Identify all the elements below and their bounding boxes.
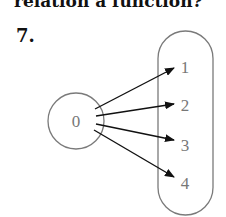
range-value-2: 2 bbox=[181, 96, 190, 115]
domain-set: 0 bbox=[48, 93, 104, 149]
range-value-1: 1 bbox=[181, 58, 190, 77]
range-value-4: 4 bbox=[181, 174, 190, 193]
arrow-0-to-1 bbox=[95, 68, 174, 109]
mapping-arrows bbox=[94, 68, 174, 177]
range-value-3: 3 bbox=[181, 136, 190, 155]
arrow-0-to-2 bbox=[96, 104, 174, 116]
range-set: 1 2 3 4 bbox=[158, 31, 213, 215]
mapping-diagram: 0 1 2 3 4 bbox=[0, 0, 226, 217]
domain-value-0: 0 bbox=[72, 112, 81, 131]
